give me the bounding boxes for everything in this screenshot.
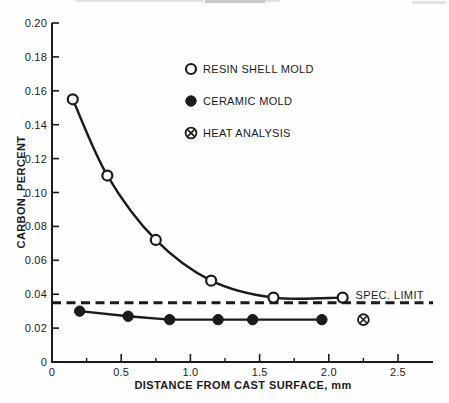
data-point-ceramic-mold bbox=[74, 306, 84, 316]
spec-limit-label: SPEC. LIMIT bbox=[355, 289, 424, 301]
data-point-ceramic-mold bbox=[317, 314, 327, 324]
series-line-ceramic-mold bbox=[80, 311, 322, 319]
y-tick-label: 0.02 bbox=[25, 322, 47, 334]
x-axis-title: DISTANCE FROM CAST SURFACE, mm bbox=[134, 379, 351, 391]
data-point-resin-shell-mold bbox=[68, 94, 78, 104]
plot-area: 00.020.040.060.080.100.120.140.160.180.2… bbox=[25, 17, 433, 378]
scanned-figure-page: DISTANCE FROM CAST SURFACE, mm CARBON, P… bbox=[0, 0, 449, 403]
y-tick-label: 0.18 bbox=[25, 51, 47, 63]
y-tick-label: 0.14 bbox=[25, 119, 47, 131]
data-point-ceramic-mold bbox=[123, 311, 133, 321]
data-point-resin-shell-mold bbox=[338, 293, 348, 303]
x-tick-label: 0.5 bbox=[113, 366, 129, 378]
y-tick-label: 0.04 bbox=[25, 288, 47, 300]
legend-label-ceramic-mold: CERAMIC MOLD bbox=[203, 95, 292, 107]
y-tick-label: 0.06 bbox=[25, 254, 47, 266]
data-point-ceramic-mold bbox=[247, 314, 257, 324]
data-point-ceramic-mold bbox=[213, 314, 223, 324]
y-tick-label: 0.10 bbox=[25, 187, 47, 199]
x-tick-label: 0 bbox=[49, 366, 55, 378]
carbon-vs-distance-chart: DISTANCE FROM CAST SURFACE, mm CARBON, P… bbox=[0, 0, 449, 403]
x-tick-label: 1.5 bbox=[252, 366, 268, 378]
y-tick-label: 0 bbox=[41, 356, 47, 368]
y-tick-label: 0.16 bbox=[25, 85, 47, 97]
legend-marker-resin-shell-mold bbox=[186, 64, 196, 74]
data-point-resin-shell-mold bbox=[151, 235, 161, 245]
legend-label-heat-analysis: HEAT ANALYSIS bbox=[203, 127, 291, 139]
y-tick-label: 0.20 bbox=[25, 17, 47, 29]
y-tick-label: 0.08 bbox=[25, 220, 47, 232]
x-tick-label: 2.5 bbox=[390, 366, 406, 378]
y-tick-label: 0.12 bbox=[25, 153, 47, 165]
data-point-resin-shell-mold bbox=[268, 293, 278, 303]
data-point-resin-shell-mold bbox=[102, 171, 112, 181]
data-point-resin-shell-mold bbox=[206, 276, 216, 286]
x-tick-label: 2.0 bbox=[321, 366, 337, 378]
legend-label-resin-shell-mold: RESIN SHELL MOLD bbox=[203, 63, 314, 75]
x-tick-label: 1.0 bbox=[182, 366, 198, 378]
data-point-ceramic-mold bbox=[164, 314, 174, 324]
legend-marker-ceramic-mold bbox=[186, 96, 196, 106]
